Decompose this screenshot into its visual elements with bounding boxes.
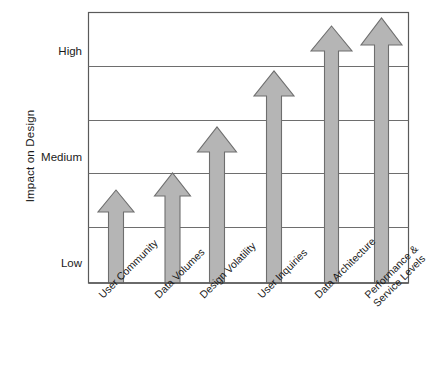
x-label-performance-service-levels: Performance & Service Levels: [362, 207, 426, 309]
x-axis-category-labels: User Community Data Volumes Design Volat…: [0, 0, 426, 383]
x-label-user-inquiries: User Inquiries: [255, 246, 309, 300]
impact-on-design-chart: Impact on Design High Medium Low: [0, 0, 426, 383]
x-label-design-volatility: Design Volatility: [197, 240, 258, 301]
x-label-user-community: User Community: [96, 237, 160, 301]
